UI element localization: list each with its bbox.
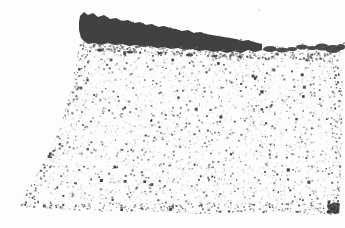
micrograph xyxy=(0,0,345,228)
micrograph-canvas xyxy=(0,0,345,228)
